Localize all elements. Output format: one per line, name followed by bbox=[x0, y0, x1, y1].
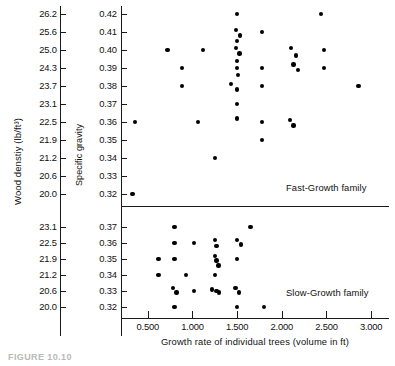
y-tick-label-gravity-0.38: 0.38 bbox=[87, 80, 117, 91]
data-point-fast-growth bbox=[291, 123, 295, 127]
data-point-fast-growth bbox=[260, 30, 264, 34]
panel-divider bbox=[121, 206, 389, 207]
y-tick-label-gravity-0.41: 0.41 bbox=[87, 26, 117, 37]
x-tick-label-1.500: 1.500 bbox=[215, 321, 259, 332]
data-point-slow-growth bbox=[248, 225, 252, 229]
data-point-fast-growth bbox=[235, 39, 239, 43]
y-tick-label-wood-23.1: 23.1 bbox=[23, 98, 57, 109]
data-point-slow-growth bbox=[172, 257, 176, 261]
data-point-fast-growth bbox=[356, 84, 360, 88]
data-point-slow-growth bbox=[192, 289, 196, 293]
data-point-slow-growth bbox=[172, 241, 176, 245]
y-tickmark bbox=[61, 275, 66, 276]
y-tick-label-gravity-0.37: 0.37 bbox=[87, 221, 117, 232]
y-tickmark bbox=[61, 259, 66, 260]
data-point-fast-growth bbox=[130, 192, 134, 196]
data-point-fast-growth bbox=[235, 102, 239, 106]
y-tickmark bbox=[61, 291, 66, 292]
data-point-fast-growth bbox=[260, 66, 264, 70]
y-tickmark bbox=[61, 14, 66, 15]
y-tick-label-wood-23.7: 23.7 bbox=[23, 80, 57, 91]
data-point-fast-growth bbox=[237, 51, 241, 55]
y-tick-label-gravity-0.36: 0.36 bbox=[87, 116, 117, 127]
data-point-slow-growth bbox=[235, 305, 239, 309]
data-point-fast-growth bbox=[291, 62, 295, 66]
x-tickmark bbox=[237, 311, 238, 319]
data-point-fast-growth bbox=[234, 28, 238, 32]
y-axis-title-wood-density: Wood denstiy (lb/ft³) bbox=[12, 118, 23, 205]
data-point-fast-growth bbox=[235, 87, 239, 91]
data-point-slow-growth bbox=[235, 257, 239, 261]
data-point-fast-growth bbox=[296, 68, 300, 72]
data-point-fast-growth bbox=[133, 120, 137, 124]
data-point-slow-growth bbox=[172, 305, 176, 309]
data-point-fast-growth bbox=[319, 12, 323, 16]
y-tick-label-gravity-0.40: 0.40 bbox=[87, 44, 117, 55]
y-tick-label-wood-20.6: 20.6 bbox=[23, 285, 57, 296]
y-tick-label-wood-22.5: 22.5 bbox=[23, 116, 57, 127]
x-tick-label-3.000: 3.000 bbox=[349, 321, 393, 332]
data-point-fast-growth bbox=[165, 48, 169, 52]
data-point-fast-growth bbox=[229, 82, 233, 86]
data-point-slow-growth bbox=[213, 254, 217, 258]
y-tick-label-wood-23.1: 23.1 bbox=[23, 221, 57, 232]
data-point-fast-growth bbox=[260, 120, 264, 124]
y-tick-label-wood-20.0: 20.0 bbox=[23, 188, 57, 199]
y-tickmark bbox=[61, 140, 66, 141]
y-tick-label-gravity-0.39: 0.39 bbox=[87, 62, 117, 73]
data-point-fast-growth bbox=[288, 118, 292, 122]
x-tick-label-2.000: 2.000 bbox=[260, 321, 304, 332]
y-tick-label-gravity-0.35: 0.35 bbox=[87, 134, 117, 145]
x-tickmark bbox=[148, 311, 149, 319]
x-axis-title: Growth rate of individual trees (volume … bbox=[121, 336, 389, 347]
x-tick-label-0.500: 0.500 bbox=[126, 321, 170, 332]
y-tick-label-gravity-0.37: 0.37 bbox=[87, 98, 117, 109]
data-point-fast-growth bbox=[235, 116, 239, 120]
data-point-slow-growth bbox=[216, 263, 220, 267]
data-point-slow-growth bbox=[213, 238, 217, 242]
data-point-slow-growth bbox=[239, 242, 243, 246]
x-tick-label-2.500: 2.500 bbox=[304, 321, 348, 332]
y-tickmark bbox=[61, 227, 66, 228]
y-tick-label-gravity-0.34: 0.34 bbox=[87, 269, 117, 280]
data-point-fast-growth bbox=[238, 33, 242, 37]
y-tickmark bbox=[61, 122, 66, 123]
data-point-fast-growth bbox=[260, 84, 264, 88]
x-tickmark bbox=[326, 311, 327, 319]
y-tick-label-wood-21.9: 21.9 bbox=[23, 253, 57, 264]
data-point-slow-growth bbox=[184, 273, 188, 277]
figure-scatter-wood-density: Wood denstiy (lb/ft³) Specific gravity 2… bbox=[0, 0, 395, 366]
y-tick-label-wood-21.2: 21.2 bbox=[23, 269, 57, 280]
y-tickmark bbox=[61, 50, 66, 51]
x-tickmark bbox=[192, 311, 193, 319]
y-tick-label-wood-26.2: 26.2 bbox=[23, 8, 57, 19]
data-point-slow-growth bbox=[174, 290, 178, 294]
y-tickmark bbox=[61, 176, 66, 177]
data-point-slow-growth bbox=[214, 244, 218, 248]
data-point-fast-growth bbox=[235, 66, 239, 70]
data-point-fast-growth bbox=[196, 120, 200, 124]
data-point-fast-growth bbox=[180, 66, 184, 70]
y-tickmark bbox=[61, 194, 66, 195]
y-tickmark bbox=[61, 307, 66, 308]
y-tickmark bbox=[61, 68, 66, 69]
data-point-slow-growth bbox=[262, 305, 266, 309]
y-tick-label-wood-25.0: 25.0 bbox=[23, 44, 57, 55]
y-tick-label-gravity-0.32: 0.32 bbox=[87, 188, 117, 199]
y-tick-label-gravity-0.33: 0.33 bbox=[87, 170, 117, 181]
figure-caption: FIGURE 10.10 bbox=[8, 352, 72, 363]
x-tick-label-1.000: 1.000 bbox=[170, 321, 214, 332]
data-point-fast-growth bbox=[322, 66, 326, 70]
data-point-fast-growth bbox=[236, 73, 240, 77]
data-point-slow-growth bbox=[171, 286, 175, 290]
x-axis-line bbox=[121, 318, 389, 319]
y-tickmark bbox=[61, 86, 66, 87]
y-tick-label-gravity-0.42: 0.42 bbox=[87, 8, 117, 19]
data-point-slow-growth bbox=[237, 290, 241, 294]
data-point-slow-growth bbox=[233, 286, 237, 290]
data-point-slow-growth bbox=[235, 238, 239, 242]
data-point-slow-growth bbox=[156, 257, 160, 261]
data-point-slow-growth bbox=[192, 241, 196, 245]
y-tickmark bbox=[61, 158, 66, 159]
data-point-fast-growth bbox=[235, 59, 239, 63]
